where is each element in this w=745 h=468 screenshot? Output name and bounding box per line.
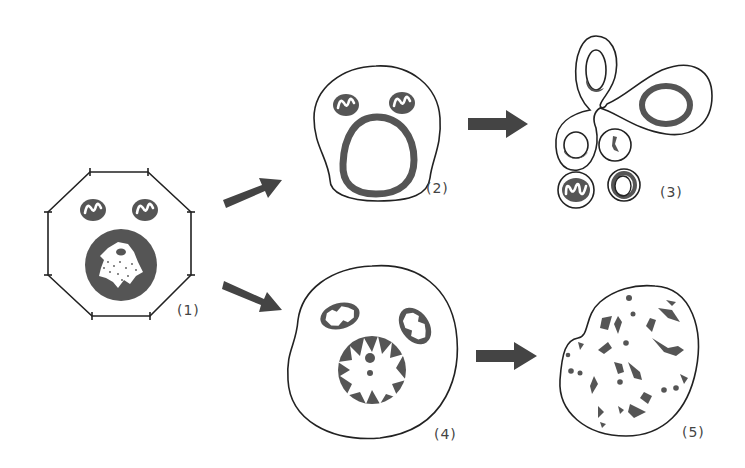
arrow-1-to-2-icon [223, 178, 282, 208]
cell-diagram [0, 0, 745, 468]
mitochondrion-icon [132, 199, 158, 221]
stage-1-cell [44, 168, 195, 320]
arrow-1-to-4-icon [222, 281, 282, 312]
stage-4-cell [288, 266, 458, 439]
mitochondrion-icon [389, 92, 415, 114]
nucleus [85, 229, 157, 301]
stage-1-label: (1) [177, 302, 200, 318]
stage-5-label: (5) [682, 424, 705, 440]
stage-5-cell [560, 286, 698, 436]
disrupted-nucleus [338, 336, 406, 404]
arrow-4-to-5-icon [476, 342, 537, 370]
stage-4-label: (4) [434, 426, 457, 442]
stage-2-cell [314, 66, 440, 201]
stage-3-fragments [556, 36, 712, 208]
stage-2-label: (2) [426, 180, 449, 196]
mitochondrion-icon [80, 199, 106, 221]
mitochondrion-icon [333, 94, 359, 116]
stage-3-label: (3) [660, 184, 683, 200]
arrow-2-to-3-icon [468, 110, 528, 138]
